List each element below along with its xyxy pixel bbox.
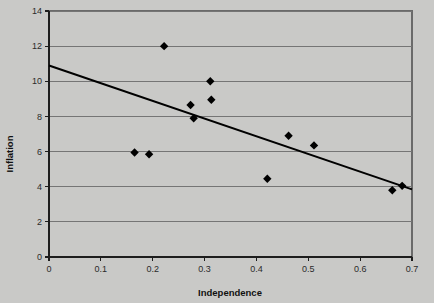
y-tick-label-4: 4 (37, 182, 42, 192)
x-tick-label-0.7: 0.7 (406, 264, 419, 274)
y-tick-label-12: 12 (32, 41, 42, 51)
x-tick-label-0.3: 0.3 (198, 264, 211, 274)
y-tick-label-14: 14 (32, 6, 42, 16)
y-axis-title: Inflation (4, 135, 15, 172)
x-tick-label-0.2: 0.2 (146, 264, 159, 274)
x-tick-label-0.1: 0.1 (95, 264, 108, 274)
x-tick-label-0.5: 0.5 (302, 264, 315, 274)
y-tick-label-2: 2 (37, 217, 42, 227)
x-axis-title: Independence (198, 287, 262, 298)
y-tick-label-0: 0 (37, 252, 42, 262)
y-tick-label-10: 10 (32, 76, 42, 86)
x-tick-label-0.6: 0.6 (354, 264, 367, 274)
y-tick-label-8: 8 (37, 112, 42, 122)
x-tick-label-0.4: 0.4 (250, 264, 263, 274)
scatter-chart: 02468101214 00.10.20.30.40.50.60.7 Indep… (0, 0, 434, 303)
chart-canvas: 02468101214 00.10.20.30.40.50.60.7 Indep… (0, 0, 434, 303)
y-tick-label-6: 6 (37, 147, 42, 157)
x-tick-label-0: 0 (46, 264, 51, 274)
